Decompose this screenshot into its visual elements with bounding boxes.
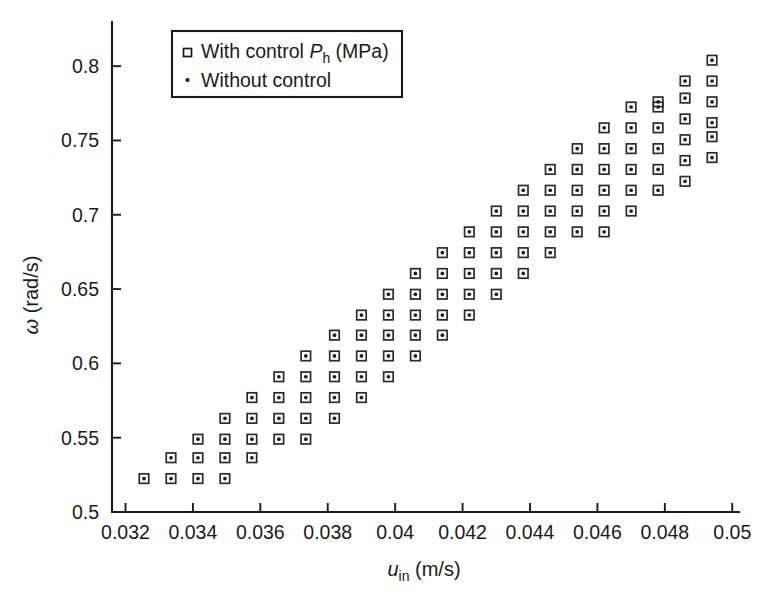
marker-dot-icon [602,126,606,130]
marker-dot-icon [223,456,227,460]
marker-dot-icon [710,58,714,62]
data-point [411,290,421,300]
marker-dot-icon [223,417,227,421]
marker-dot-icon [575,209,579,213]
marker-dot-icon [277,396,281,400]
data-point [330,393,340,403]
marker-dot-icon [521,209,525,213]
y-tick-label: 0.8 [72,55,99,77]
marker-dot-icon [304,417,308,421]
data-point [599,165,609,175]
data-point [545,185,555,195]
data-point [680,114,690,124]
data-point [274,434,284,444]
data-point [492,269,502,279]
data-point [707,55,717,64]
marker-dot-icon [223,477,227,481]
marker-dot-icon [494,272,498,276]
data-point [330,414,340,424]
data-point [220,414,230,424]
scatter-plot: 0.0320.0340.0360.0380.040.0420.0440.0460… [0,0,779,613]
marker-dot-icon [196,477,200,481]
marker-dot-icon [169,456,173,460]
data-point [707,153,717,163]
data-point [411,330,421,340]
data-point [519,185,529,195]
data-point [653,144,663,154]
data-point [626,123,636,133]
marker-dot-icon [441,292,445,296]
marker-dot-icon [548,251,552,255]
marker-dot-icon [467,292,471,296]
marker-dot-icon [467,230,471,234]
marker-dot-icon [360,313,364,317]
marker-dot-icon [575,147,579,151]
marker-dot-icon [250,437,254,441]
marker-dot-icon [683,117,687,121]
y-tick-label: 0.75 [61,129,99,151]
marker-dot-icon [277,417,281,421]
data-point [384,310,394,320]
marker-dot-icon [414,354,418,358]
data-point [626,165,636,175]
marker-dot-icon [250,456,254,460]
y-tick-label: 0.7 [72,204,99,226]
x-tick-label: 0.038 [303,521,352,543]
axis-tick-labels-layer: 0.0320.0340.0360.0380.040.0420.0440.0460… [61,55,751,543]
data-point [357,351,367,361]
marker-dot-icon [414,333,418,337]
marker-dot-icon [548,188,552,192]
data-point [166,474,176,484]
data-point [519,206,529,216]
marker-dot-icon [333,375,337,379]
data-point [438,269,448,279]
marker-dot-icon [414,272,418,276]
data-point [139,474,149,484]
data-point [301,372,311,382]
marker-dot-icon [602,188,606,192]
data-point [220,474,230,484]
data-point [653,185,663,195]
x-tick-label: 0.032 [101,521,150,543]
marker-dot-icon [277,437,281,441]
x-tick-label: 0.042 [438,521,487,543]
marker-dot-icon [333,354,337,358]
marker-dot-icon [387,375,391,379]
data-point [599,227,609,237]
data-point [166,453,176,463]
data-point [330,330,340,340]
marker-dot-icon [494,230,498,234]
marker-dot-icon [710,100,714,104]
data-point [438,310,448,320]
data-point [599,144,609,154]
x-tick-label: 0.048 [640,521,689,543]
marker-dot-icon [548,209,552,213]
data-point [330,372,340,382]
marker-dot-icon [710,121,714,125]
data-point [572,227,582,237]
data-point [572,206,582,216]
data-point [357,310,367,320]
x-tick-label: 0.04 [376,521,414,543]
marker-dot-icon [196,456,200,460]
data-point [545,248,555,258]
marker-dot-icon [602,230,606,234]
marker-dot-icon [656,168,660,172]
data-point [301,393,311,403]
y-tick-label: 0.6 [72,352,99,374]
data-point [301,414,311,424]
data-point [465,290,475,300]
marker-dot-icon [548,168,552,172]
data-point [599,123,609,133]
data-point [438,248,448,258]
marker-dot-icon [360,396,364,400]
marker-dot-icon [304,396,308,400]
marker-dot-icon [521,272,525,276]
data-point [572,165,582,175]
marker-dot-icon [387,333,391,337]
legend-marker-dot-icon [185,78,189,82]
data-point [193,474,203,484]
x-tick-label: 0.044 [506,521,555,543]
marker-dot-icon [629,168,633,172]
data-point [492,227,502,237]
